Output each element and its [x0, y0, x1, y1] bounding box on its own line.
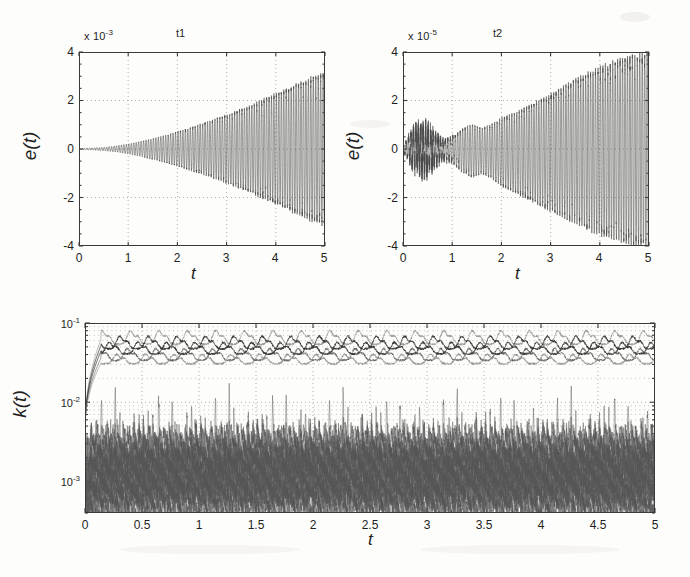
- axis-frame-t2: [403, 52, 649, 246]
- panel-k: 10-1 10-2 10-3 k(t) 0 0.5 1 1.5 2 2.5 3 …: [0, 290, 690, 577]
- panel-t2: x 10-5 t2 4 2 0 -2 -4 e(t) 0 1 2 3 4 5 t: [345, 0, 690, 290]
- figure-canvas: x 10-3 t1 4 2 0 -2 -4 e(t) 0 1 2 3 4 5 t…: [0, 0, 690, 577]
- axis-frame-t1: [79, 52, 325, 246]
- axis-frame-k: [85, 323, 655, 513]
- panel-t1: x 10-3 t1 4 2 0 -2 -4 e(t) 0 1 2 3 4 5 t: [0, 0, 345, 290]
